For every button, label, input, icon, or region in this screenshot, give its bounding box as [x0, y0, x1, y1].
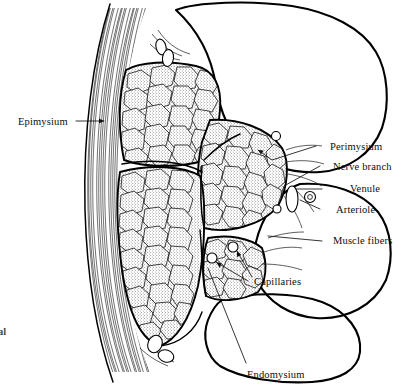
- label-muscle-fibers: Muscle fibers: [333, 235, 392, 246]
- nerve-branch-section: [273, 205, 281, 213]
- cropped-margin-text: al: [0, 326, 6, 337]
- label-epimysium: Epimysium: [18, 116, 68, 127]
- anatomical-figure: Epimysium Perimysium Nerve branch Venule…: [0, 0, 408, 386]
- small-vessel-upper: [272, 132, 281, 141]
- venule-lumen: [286, 186, 298, 212]
- arteriole-lumen: [305, 192, 316, 203]
- label-endomysium: Endomysium: [247, 369, 305, 380]
- muscle-cross-section-drawing: Epimysium Perimysium Nerve branch Venule…: [0, 0, 408, 386]
- capillary-2: [228, 242, 238, 252]
- label-perimysium: Perimysium: [330, 141, 382, 152]
- capillary-1: [207, 253, 217, 263]
- label-venule: Venule: [350, 183, 380, 194]
- label-arteriole: Arteriole: [336, 204, 375, 215]
- label-capillaries: Capillaries: [254, 276, 301, 287]
- label-nerve-branch: Nerve branch: [333, 161, 392, 172]
